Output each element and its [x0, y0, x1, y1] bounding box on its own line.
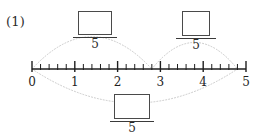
tick-label-4: 4: [196, 76, 210, 89]
fraction-blank-top-left: 5: [73, 11, 117, 51]
tick-label-3: 3: [153, 76, 167, 89]
tick-label-2: 2: [111, 76, 125, 89]
fraction-blank-bottom: 5: [110, 94, 154, 133]
fraction-blank-top-right: 5: [176, 11, 216, 52]
denominator-bottom: 5: [110, 122, 154, 133]
answer-box-bottom[interactable]: [114, 94, 150, 119]
answer-box-top-right[interactable]: [182, 11, 210, 36]
denominator-top-right: 5: [176, 39, 216, 52]
tick-label-0: 0: [25, 76, 39, 89]
worksheet-problem-figure: (1) 012345 5 5 5: [0, 0, 262, 133]
tick-label-1: 1: [68, 76, 82, 89]
number-line-ticks: [32, 61, 246, 72]
denominator-top-left: 5: [73, 38, 117, 51]
answer-box-top-left[interactable]: [78, 11, 112, 35]
tick-label-5: 5: [239, 76, 253, 89]
